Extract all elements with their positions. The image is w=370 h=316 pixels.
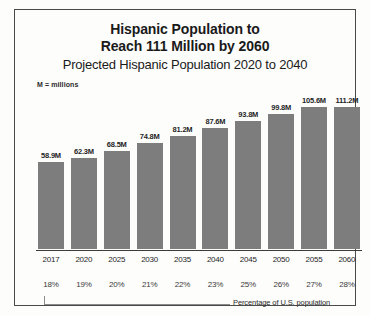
percentage-label: 22% — [170, 280, 196, 289]
chart-page: Hispanic Population to Reach 111 Million… — [0, 0, 370, 316]
year-label: 2030 — [137, 255, 163, 264]
percentage-caption: Percentage of U.S. population — [233, 298, 330, 307]
year-label: 2020 — [71, 255, 97, 264]
percentage-label: 18% — [38, 280, 64, 289]
year-label: 2025 — [104, 255, 130, 264]
percentage-label: 25% — [235, 280, 261, 289]
chart-title-line-1: Hispanic Population to — [15, 21, 355, 38]
bar-value-label: 111.2M — [335, 96, 358, 105]
bar — [268, 114, 294, 249]
percentage-bracket — [44, 296, 230, 305]
bar-group: 68.5M — [104, 96, 130, 249]
bar-group: 62.3M — [71, 96, 97, 249]
bar-group: 58.9M — [38, 96, 64, 249]
plot-area: 58.9M62.3M68.5M74.8M81.2M87.6M93.8M99.8M… — [38, 96, 360, 249]
chart-title-line-2: Reach 111 Million by 2060 — [15, 38, 355, 55]
bar-group: 81.2M — [170, 96, 196, 249]
year-label: 2050 — [268, 255, 294, 264]
bar-value-label: 87.6M — [205, 117, 225, 126]
year-label: 2017 — [38, 255, 64, 264]
year-label: 2040 — [202, 255, 228, 264]
bar-group: 87.6M — [202, 96, 228, 249]
bar-value-label: 58.9M — [41, 151, 61, 160]
chart-frame: Hispanic Population to Reach 111 Million… — [14, 9, 356, 306]
bar — [170, 136, 196, 249]
bar — [104, 151, 130, 250]
percentage-label: 27% — [301, 280, 327, 289]
bar-group: 74.8M — [137, 96, 163, 249]
bar-value-label: 81.2M — [173, 125, 193, 134]
bar-group: 105.6M — [301, 96, 327, 249]
percentage-label: 21% — [137, 280, 163, 289]
chart-subtitle: Projected Hispanic Population 2020 to 20… — [15, 56, 355, 74]
x-axis-tick-labels: 2017202020252030203520402045205020552060 — [38, 255, 360, 264]
bar-value-label: 99.8M — [271, 103, 291, 112]
x-axis-line — [36, 250, 362, 251]
year-label: 2055 — [301, 255, 327, 264]
percentage-row: 18%19%20%21%22%23%25%26%27%28% — [38, 280, 360, 289]
year-label: 2060 — [334, 255, 360, 264]
percentage-label: 28% — [334, 280, 360, 289]
year-label: 2045 — [235, 255, 261, 264]
bar — [334, 107, 360, 249]
chart-header: Hispanic Population to Reach 111 Million… — [15, 21, 355, 74]
bar-value-label: 68.5M — [107, 140, 127, 149]
bar — [235, 121, 261, 249]
bar-value-label: 74.8M — [140, 132, 160, 141]
percentage-label: 26% — [268, 280, 294, 289]
units-note: M = millions — [37, 81, 78, 88]
bar — [137, 143, 163, 249]
bar-value-label: 105.6M — [302, 96, 326, 105]
bar — [38, 162, 64, 249]
bar — [71, 158, 97, 249]
bar-value-label: 93.8M — [238, 110, 258, 119]
bar — [301, 107, 327, 249]
percentage-label: 20% — [104, 280, 130, 289]
bar-group: 111.2M — [334, 96, 360, 249]
bar — [202, 128, 228, 249]
bar-group: 93.8M — [235, 96, 261, 249]
bar-group: 99.8M — [268, 96, 294, 249]
year-label: 2035 — [170, 255, 196, 264]
percentage-label: 19% — [71, 280, 97, 289]
percentage-label: 23% — [202, 280, 228, 289]
bar-series: 58.9M62.3M68.5M74.8M81.2M87.6M93.8M99.8M… — [38, 96, 360, 249]
bar-value-label: 62.3M — [74, 147, 94, 156]
